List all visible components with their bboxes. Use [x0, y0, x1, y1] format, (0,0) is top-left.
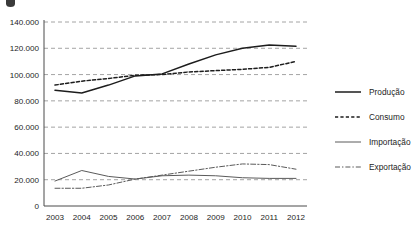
x-tick-label: 2009 [207, 213, 226, 222]
legend-label-2: Importação [369, 137, 411, 147]
y-tick-label: 0 [34, 202, 39, 211]
y-tick-label: 80.000 [14, 97, 39, 106]
series-line-2 [55, 171, 296, 182]
chart-canvas: 020.00040.00060.00080.000100.000120.0001… [0, 0, 416, 241]
x-tick-label: 2011 [261, 213, 279, 222]
x-tick-label: 2007 [153, 213, 172, 222]
data-series-group [55, 45, 296, 188]
y-tick-label: 40.000 [14, 149, 39, 158]
x-tick-label: 2006 [126, 213, 145, 222]
y-tick-label: 20.000 [14, 176, 39, 185]
chart-legend: ProduçãoConsumoImportaçãoExportação [335, 87, 411, 172]
x-tick-label: 2004 [73, 213, 92, 222]
series-line-3 [55, 164, 296, 188]
legend-label-3: Exportação [369, 162, 411, 172]
x-tick-label: 2012 [287, 213, 306, 222]
line-chart: 020.00040.00060.00080.000100.000120.0001… [0, 0, 416, 241]
x-tick-label: 2005 [100, 213, 119, 222]
y-tick-label: 60.000 [14, 123, 39, 132]
series-line-1 [55, 61, 296, 85]
y-tick-label: 140.000 [10, 18, 40, 27]
x-tick-label: 2010 [233, 213, 252, 222]
legend-label-1: Consumo [369, 112, 405, 122]
series-line-0 [55, 45, 296, 93]
y-tick-label: 120.000 [10, 44, 40, 53]
x-tick-label: 2003 [46, 213, 65, 222]
y-axis-tick-labels: 020.00040.00060.00080.000100.000120.0001… [10, 18, 40, 211]
y-tick-label: 100.000 [10, 71, 40, 80]
legend-label-0: Produção [369, 87, 405, 97]
x-axis-tick-labels: 2003200420052006200720082009201020112012 [46, 213, 306, 222]
x-tick-label: 2008 [180, 213, 199, 222]
